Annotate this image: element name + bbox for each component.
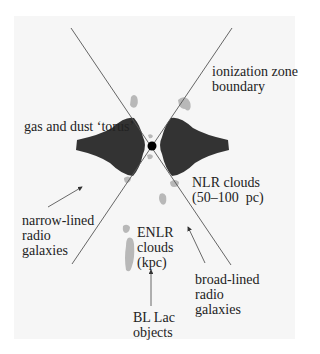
- label-narrow-lined: narrow-lined radio galaxies: [22, 213, 94, 258]
- enlr-cloud: [123, 225, 130, 233]
- torus-right: [160, 118, 229, 176]
- nucleus-black-hole: [148, 142, 157, 151]
- nlr-cloud: [130, 95, 138, 108]
- nlr-cloud: [148, 134, 153, 138]
- label-nlr-clouds: NLR clouds (50–100 pc): [192, 175, 264, 205]
- arrow-narrow-lined: [48, 187, 82, 207]
- label-enlr-clouds: ENLR clouds (kpc): [137, 225, 174, 270]
- label-torus: gas and dust ‘torus’: [24, 119, 134, 134]
- nlr-cloud: [178, 97, 191, 110]
- nlr-cloud: [159, 193, 166, 204]
- nlr-cloud: [147, 154, 153, 159]
- label-broad-lined: broad-lined radio galaxies: [195, 272, 260, 317]
- enlr-cloud: [125, 238, 134, 272]
- arrow-broad-lined: [188, 227, 205, 263]
- label-bl-lac: BL Lac objects: [133, 310, 175, 340]
- label-ionization-zone: ionization zone boundary: [212, 64, 298, 94]
